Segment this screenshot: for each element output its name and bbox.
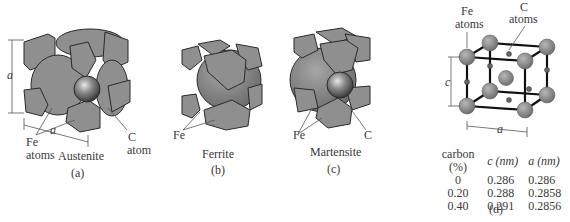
table-header-row: carbon (%) c (nm) a (nm) bbox=[432, 148, 570, 174]
caption-c: (c) bbox=[327, 163, 340, 176]
austenite-dimension-a-horizontal: a bbox=[50, 124, 56, 137]
martensite-c-label: C bbox=[364, 129, 372, 142]
austenite-fe-label-2: atoms bbox=[26, 149, 55, 162]
bct-lattice bbox=[448, 26, 555, 137]
caption-b: (b) bbox=[211, 164, 225, 177]
header-c: c (nm) bbox=[484, 148, 525, 174]
header-carbon: carbon (%) bbox=[432, 148, 484, 174]
caption-d: (d) bbox=[489, 203, 503, 216]
austenite-unit-cell bbox=[24, 29, 130, 132]
ferrite-unit-cell bbox=[182, 40, 262, 130]
ferrite-fe-label: Fe bbox=[173, 129, 185, 142]
bct-dimension-a: a bbox=[497, 123, 503, 136]
austenite-dimension-a-vertical: a bbox=[7, 69, 13, 82]
bct-c-label-2: atoms bbox=[509, 13, 538, 26]
martensite-fe-label: Fe bbox=[293, 129, 305, 142]
bct-dimension-c: c bbox=[445, 76, 450, 89]
austenite-name: Austenite bbox=[58, 150, 104, 163]
cell-a: 0.2856 bbox=[525, 200, 570, 213]
header-a: a (nm) bbox=[525, 148, 570, 174]
ferrite-name: Ferrite bbox=[202, 148, 234, 161]
martensite-unit-cell bbox=[290, 28, 370, 128]
caption-a: (a) bbox=[71, 167, 84, 180]
austenite-c-label-2: atom bbox=[127, 144, 151, 157]
bct-fe-label-2: atoms bbox=[455, 18, 484, 31]
cell-carbon: 0.40 bbox=[432, 200, 484, 213]
martensite-name: Martensite bbox=[310, 146, 361, 159]
